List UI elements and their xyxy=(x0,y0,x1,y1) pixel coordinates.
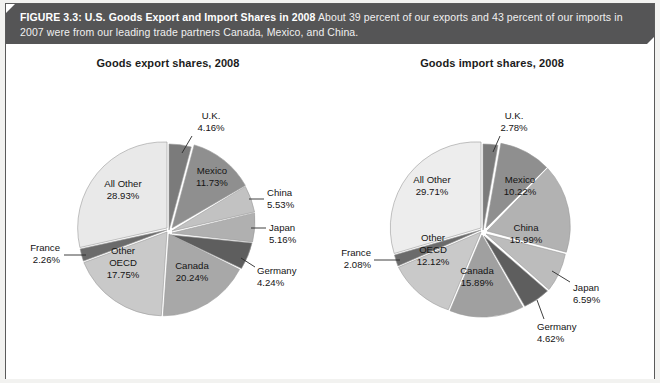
label-canada-pct: 15.89% xyxy=(461,277,494,288)
label-germany-pct: 4.24% xyxy=(257,277,285,288)
export-chart-panel: Goods export shares, 2008 xyxy=(6,44,330,379)
label-mexico-name: Mexico xyxy=(197,165,227,176)
label-uk-name: U.K. xyxy=(505,110,524,121)
export-pie-wrap: U.K. 4.16% Mexico 11.73% China 5.53% Jap… xyxy=(6,78,330,378)
label-china-pct: 15.99% xyxy=(510,234,543,245)
label-france-name: France xyxy=(30,242,60,253)
label-china-name: China xyxy=(513,222,539,233)
label-germany-name: Germany xyxy=(257,265,297,276)
figure-page: FIGURE 3.3: U.S. Goods Export and Import… xyxy=(0,0,660,383)
label-mexico-name: Mexico xyxy=(505,174,535,185)
label-all-other-pct: 28.93% xyxy=(107,190,140,201)
label-all-other-pct: 29.71% xyxy=(416,186,449,197)
label-other-oecd-name-2: OECD xyxy=(109,257,137,268)
figure-caption: FIGURE 3.3: U.S. Goods Export and Import… xyxy=(20,10,640,39)
label-uk-pct: 4.16% xyxy=(197,122,225,133)
label-other-oecd-pct: 12.12% xyxy=(417,256,450,267)
label-uk-pct: 2.78% xyxy=(500,122,528,133)
export-pie-slices xyxy=(78,142,255,316)
label-mexico-pct: 11.73% xyxy=(196,177,228,188)
figure-caption-band: FIGURE 3.3: U.S. Goods Export and Import… xyxy=(6,4,654,44)
figure-caption-title: FIGURE 3.3: U.S. Goods Export and Import… xyxy=(20,11,315,23)
leader-germany xyxy=(537,300,544,319)
import-pie-slices xyxy=(390,142,570,317)
label-canada-name: Canada xyxy=(175,260,209,271)
export-chart-title: Goods export shares, 2008 xyxy=(6,57,330,69)
import-pie-svg: U.K. 2.78% Mexico 10.22% China 15.99% Ja… xyxy=(330,78,654,378)
label-france-pct: 2.08% xyxy=(344,259,372,270)
label-france-pct: 2.26% xyxy=(33,254,61,265)
label-other-oecd-name-1: Other xyxy=(421,232,446,243)
label-japan-name: Japan xyxy=(269,222,295,233)
label-other-oecd-pct: 17.75% xyxy=(107,269,140,280)
label-germany-name: Germany xyxy=(537,321,577,332)
import-chart-panel: Goods import shares, 2008 xyxy=(330,44,654,379)
label-canada-name: Canada xyxy=(460,265,494,276)
label-canada-pct: 20.24% xyxy=(176,272,209,283)
label-japan-pct: 5.16% xyxy=(269,234,297,245)
label-all-other-name: All Other xyxy=(104,178,142,189)
label-uk-name: U.K. xyxy=(202,110,221,121)
label-china-name: China xyxy=(267,187,293,198)
label-germany-pct: 4.62% xyxy=(537,333,565,344)
label-china-pct: 5.53% xyxy=(267,199,295,210)
charts-container: Goods export shares, 2008 xyxy=(6,44,654,379)
label-japan-pct: 6.59% xyxy=(573,294,601,305)
label-all-other-name: All Other xyxy=(413,174,451,185)
label-mexico-pct: 10.22% xyxy=(504,186,537,197)
label-france-name: France xyxy=(341,247,371,258)
label-japan-name: Japan xyxy=(573,282,599,293)
label-other-oecd-name-1: Other xyxy=(111,245,136,256)
label-other-oecd-name-2: OECD xyxy=(419,244,447,255)
export-pie-svg: U.K. 4.16% Mexico 11.73% China 5.53% Jap… xyxy=(6,78,330,378)
import-chart-title: Goods import shares, 2008 xyxy=(330,57,654,69)
import-pie-wrap: U.K. 2.78% Mexico 10.22% China 15.99% Ja… xyxy=(330,78,654,378)
